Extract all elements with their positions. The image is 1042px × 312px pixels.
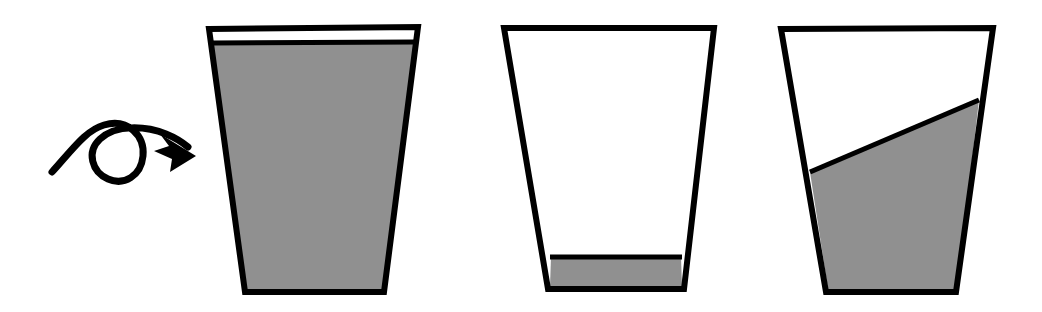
cup-2-liquid bbox=[550, 257, 682, 286]
cup-tilted-surface bbox=[781, 28, 993, 292]
rotation-arrow bbox=[52, 123, 196, 181]
cup-nearly-empty bbox=[504, 28, 714, 289]
cup-2-body bbox=[504, 28, 714, 289]
cup-full bbox=[209, 27, 418, 292]
cup-1-surface-line bbox=[212, 42, 415, 43]
figure-canvas bbox=[0, 0, 1042, 312]
figure-root bbox=[0, 0, 1042, 312]
